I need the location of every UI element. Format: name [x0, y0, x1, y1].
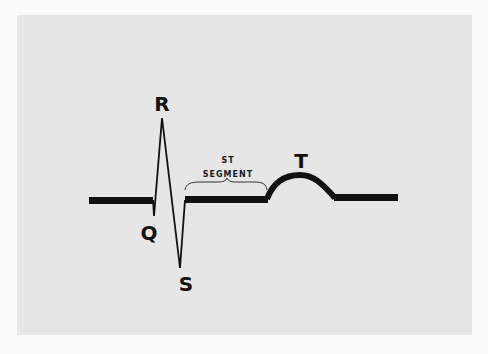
- diagram-stage: R Q S T ST SEGMENT: [0, 0, 488, 354]
- qrs-complex: [153, 118, 185, 268]
- ecg-diagram: R Q S T ST SEGMENT: [0, 0, 488, 354]
- st-segment-brace: [185, 178, 267, 190]
- label-r: R: [154, 92, 169, 116]
- label-t: T: [294, 149, 308, 173]
- t-wave: [267, 175, 335, 199]
- label-s: S: [179, 272, 193, 296]
- label-segment: SEGMENT: [203, 170, 253, 179]
- label-q: Q: [140, 221, 157, 245]
- label-st: ST: [221, 156, 234, 165]
